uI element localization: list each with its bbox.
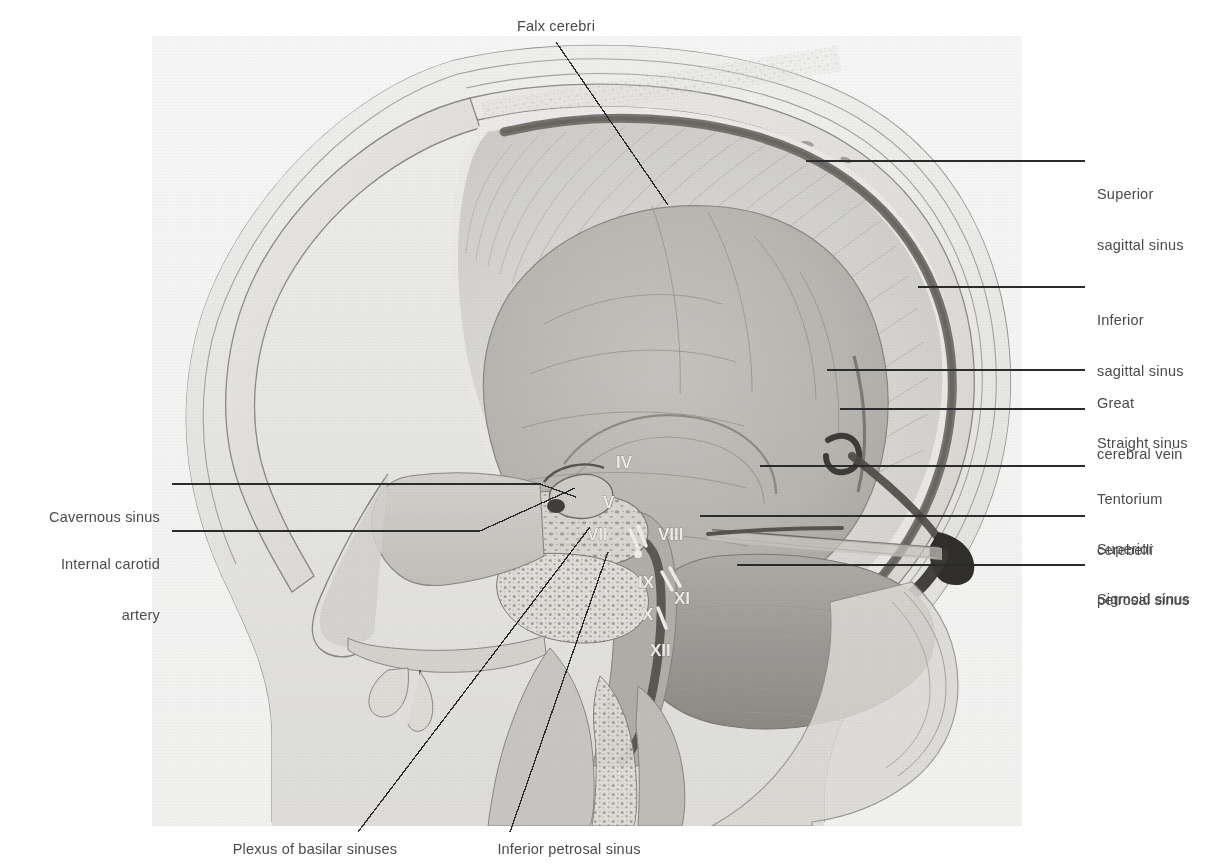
label-sigmoid-sinus-line1: Sigmoid sinus xyxy=(1097,591,1190,608)
label-inferior-sagittal-sinus-line1: Inferior xyxy=(1097,312,1184,329)
label-superior-sagittal-sinus-line2: sagittal sinus xyxy=(1097,237,1184,254)
label-superior-sagittal-sinus-line1: Superior xyxy=(1097,186,1184,203)
illustration-plate: IV V VII VIII IX X XI XII xyxy=(152,36,1022,826)
label-tentorium-cerebelli-line1: Tentorium xyxy=(1097,491,1162,508)
label-internal-carotid-artery[interactable]: Internal carotid artery xyxy=(0,522,160,658)
label-internal-carotid-artery-line1: Internal carotid xyxy=(0,556,160,573)
label-inferior-petrosal-sinus[interactable]: Inferior petrosal sinus xyxy=(446,841,692,858)
label-superior-petrosal-sinus-line1: Superior xyxy=(1097,541,1189,558)
paper-texture xyxy=(152,36,1022,826)
label-internal-carotid-artery-line2: artery xyxy=(0,607,160,624)
label-sigmoid-sinus[interactable]: Sigmoid sinus xyxy=(1097,557,1190,642)
label-plexus-of-basilar-sinuses[interactable]: Plexus of basilar sinuses xyxy=(190,841,440,858)
figure-root: IV V VII VIII IX X XI XII xyxy=(0,0,1230,867)
label-superior-sagittal-sinus[interactable]: Superior sagittal sinus xyxy=(1097,152,1184,288)
label-falx-cerebri[interactable]: Falx cerebri xyxy=(441,18,671,35)
label-straight-sinus-line1: Straight sinus xyxy=(1097,435,1188,452)
